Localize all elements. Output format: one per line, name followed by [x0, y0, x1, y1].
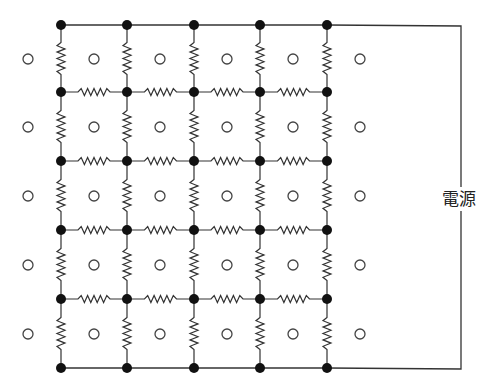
open-circle-icon [355, 329, 365, 339]
open-circle-icon [23, 260, 33, 270]
horizontal-resistor-icon [127, 227, 194, 234]
vertical-resistor-icon [190, 299, 198, 368]
open-circle-icon [89, 54, 99, 64]
horizontal-resistor-icon [260, 296, 327, 303]
open-circle-icon [155, 54, 165, 64]
junction-node-icon [122, 225, 132, 235]
vertical-resistor-icon [57, 230, 65, 299]
junction-node-icon [255, 156, 265, 166]
open-circle-icon [288, 122, 298, 132]
resistor-grid-diagram: 電源 [0, 0, 492, 387]
junction-node-icon [322, 363, 332, 373]
circuit-drawing [0, 0, 492, 387]
junction-node-icon [122, 363, 132, 373]
open-circle-icon [222, 329, 232, 339]
vertical-resistor-icon [123, 25, 131, 92]
open-circle-icon [89, 329, 99, 339]
junction-node-icon [189, 225, 199, 235]
horizontal-resistor-icon [61, 227, 127, 234]
junction-node-icon [322, 225, 332, 235]
junction-node-icon [189, 20, 199, 30]
vertical-resistor-icon [190, 25, 198, 92]
vertical-resistor-icon [256, 230, 264, 299]
junction-node-icon [56, 294, 66, 304]
junction-node-icon [122, 20, 132, 30]
vertical-resistor-icon [323, 299, 331, 368]
horizontal-resistor-icon [61, 296, 127, 303]
power-supply-wire [327, 25, 461, 369]
junction-node-icon [255, 225, 265, 235]
junction-node-icon [122, 87, 132, 97]
junction-node-icon [255, 87, 265, 97]
horizontal-resistor-icon [260, 89, 327, 96]
junction-node-icon [56, 156, 66, 166]
open-circle-icon [89, 191, 99, 201]
vertical-resistor-icon [190, 92, 198, 161]
open-circle-icon [288, 329, 298, 339]
horizontal-resistor-icon [194, 296, 260, 303]
vertical-resistor-icon [323, 25, 331, 92]
open-circle-icon [222, 260, 232, 270]
horizontal-resistor-icon [61, 158, 127, 165]
junction-node-icon [56, 225, 66, 235]
open-circle-icon [155, 122, 165, 132]
vertical-resistor-icon [57, 161, 65, 230]
horizontal-resistor-icon [61, 89, 127, 96]
open-circle-icon [222, 191, 232, 201]
junction-node-icon [122, 156, 132, 166]
open-circle-icon [23, 54, 33, 64]
horizontal-resistor-icon [260, 227, 327, 234]
junction-node-icon [322, 294, 332, 304]
vertical-resistor-icon [256, 299, 264, 368]
junction-node-icon [189, 87, 199, 97]
open-circle-icon [355, 54, 365, 64]
power-source-label: 電源 [442, 187, 476, 211]
horizontal-resistor-icon [127, 89, 194, 96]
open-circle-icon [222, 54, 232, 64]
vertical-resistor-icon [57, 299, 65, 368]
vertical-resistor-icon [123, 230, 131, 299]
open-circle-icon [89, 122, 99, 132]
open-circle-icon [288, 191, 298, 201]
open-circle-icon [23, 329, 33, 339]
vertical-resistor-icon [123, 92, 131, 161]
vertical-resistor-icon [190, 230, 198, 299]
open-circle-icon [89, 260, 99, 270]
vertical-resistor-icon [256, 25, 264, 92]
vertical-resistor-icon [256, 161, 264, 230]
vertical-resistor-icon [57, 25, 65, 92]
junction-node-icon [189, 156, 199, 166]
open-circle-icon [288, 260, 298, 270]
vertical-resistor-icon [190, 161, 198, 230]
junction-node-icon [255, 294, 265, 304]
open-circle-icon [355, 260, 365, 270]
vertical-resistor-icon [323, 230, 331, 299]
junction-node-icon [255, 363, 265, 373]
junction-node-icon [189, 363, 199, 373]
open-circle-icon [222, 122, 232, 132]
vertical-resistor-icon [123, 299, 131, 368]
vertical-resistor-icon [323, 92, 331, 161]
horizontal-resistor-icon [127, 296, 194, 303]
open-circle-icon [155, 329, 165, 339]
vertical-resistor-icon [123, 161, 131, 230]
junction-node-icon [56, 363, 66, 373]
open-circle-icon [355, 122, 365, 132]
open-circle-icon [23, 191, 33, 201]
vertical-resistor-icon [57, 92, 65, 161]
horizontal-resistor-icon [194, 227, 260, 234]
junction-node-icon [322, 87, 332, 97]
junction-node-icon [255, 20, 265, 30]
open-circle-icon [355, 191, 365, 201]
junction-node-icon [322, 20, 332, 30]
horizontal-resistor-icon [127, 158, 194, 165]
junction-node-icon [122, 294, 132, 304]
horizontal-resistor-icon [194, 158, 260, 165]
vertical-resistor-icon [323, 161, 331, 230]
horizontal-resistor-icon [194, 89, 260, 96]
vertical-resistor-icon [256, 92, 264, 161]
junction-node-icon [189, 294, 199, 304]
junction-node-icon [56, 20, 66, 30]
open-circle-icon [288, 54, 298, 64]
horizontal-resistor-icon [260, 158, 327, 165]
